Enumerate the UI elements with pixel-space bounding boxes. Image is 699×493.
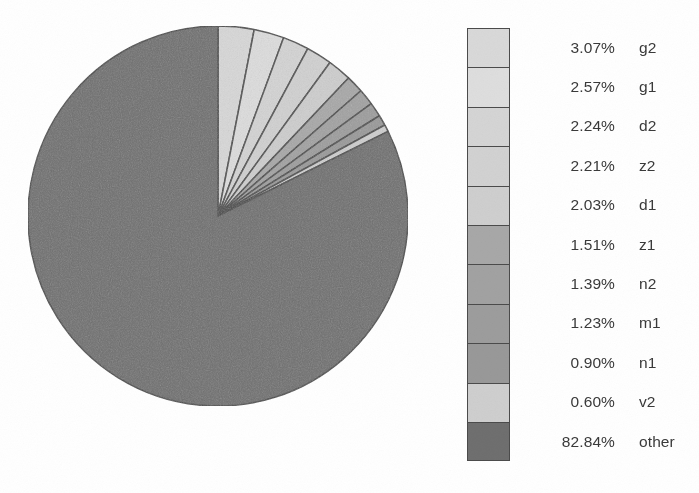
legend-color-swatch	[467, 383, 510, 422]
legend-percent: 1.39%	[517, 275, 615, 293]
legend-color-swatch	[467, 304, 510, 343]
legend-percent: 1.51%	[517, 236, 615, 254]
legend-label: m1	[639, 314, 661, 332]
legend-item[interactable]: 0.60%v2	[467, 383, 689, 422]
legend-color-swatch	[467, 28, 510, 67]
legend-percent: 0.90%	[517, 354, 615, 372]
legend-color-swatch	[467, 225, 510, 264]
legend-item[interactable]: 2.03%d1	[467, 186, 689, 225]
legend-color-swatch	[467, 107, 510, 146]
legend-label: n1	[639, 354, 656, 372]
pie-chart-figure: 3.07%g22.57%g12.24%d22.21%z22.03%d11.51%…	[0, 0, 699, 493]
legend-label: z1	[639, 236, 656, 254]
legend-color-swatch	[467, 343, 510, 382]
pie-svg	[26, 24, 410, 408]
legend-label: g2	[639, 39, 656, 57]
legend-item[interactable]: 82.84%other	[467, 422, 689, 461]
legend-color-swatch	[467, 67, 510, 106]
legend-item[interactable]: 2.57%g1	[467, 67, 689, 106]
pie-slice-group	[28, 26, 408, 406]
legend-item[interactable]: 2.24%d2	[467, 107, 689, 146]
legend-percent: 1.23%	[517, 314, 615, 332]
legend-label: z2	[639, 157, 656, 175]
legend-item[interactable]: 1.39%n2	[467, 264, 689, 303]
legend: 3.07%g22.57%g12.24%d22.21%z22.03%d11.51%…	[467, 28, 689, 461]
legend-item[interactable]: 1.51%z1	[467, 225, 689, 264]
legend-item[interactable]: 2.21%z2	[467, 146, 689, 185]
legend-label: v2	[639, 393, 656, 411]
legend-percent: 2.24%	[517, 117, 615, 135]
legend-item[interactable]: 1.23%m1	[467, 304, 689, 343]
pie-chart-area	[26, 24, 410, 408]
legend-color-swatch	[467, 422, 510, 461]
legend-item[interactable]: 3.07%g2	[467, 28, 689, 67]
legend-percent: 3.07%	[517, 39, 615, 57]
legend-percent: 2.21%	[517, 157, 615, 175]
legend-percent: 82.84%	[517, 433, 615, 451]
legend-percent: 0.60%	[517, 393, 615, 411]
legend-label: d1	[639, 196, 656, 214]
legend-label: other	[639, 433, 675, 451]
legend-color-swatch	[467, 264, 510, 303]
legend-color-swatch	[467, 146, 510, 185]
legend-color-swatch	[467, 186, 510, 225]
legend-label: g1	[639, 78, 656, 96]
legend-percent: 2.57%	[517, 78, 615, 96]
legend-label: d2	[639, 117, 656, 135]
legend-item[interactable]: 0.90%n1	[467, 343, 689, 382]
legend-label: n2	[639, 275, 656, 293]
legend-percent: 2.03%	[517, 196, 615, 214]
